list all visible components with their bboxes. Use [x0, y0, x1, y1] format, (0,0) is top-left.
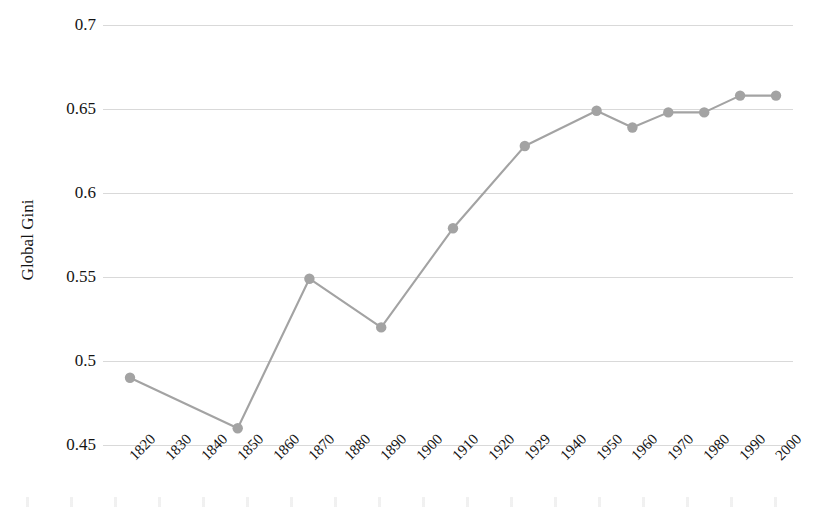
series-line	[130, 96, 776, 429]
scan-noise-artifact	[0, 497, 818, 507]
data-point-1850	[233, 423, 243, 433]
y-tick-0.5: 0.5	[40, 351, 96, 371]
y-tick-0.6: 0.6	[40, 183, 96, 203]
data-point-1990	[735, 90, 745, 100]
y-axis-title: Global Gini	[14, 40, 42, 440]
y-tick-0.7: 0.7	[40, 15, 96, 35]
plot-area	[103, 25, 793, 445]
data-point-2000	[771, 90, 781, 100]
data-point-1950	[591, 106, 601, 116]
y-tick-0.65: 0.65	[40, 99, 96, 119]
line-chart: Global Gini 0.70.650.60.550.50.45 182018…	[0, 0, 818, 507]
data-point-1970	[663, 107, 673, 117]
y-tick-0.45: 0.45	[40, 435, 96, 455]
data-point-1820	[125, 373, 135, 383]
series-global-gini	[103, 25, 793, 445]
data-point-1960	[627, 122, 637, 132]
data-point-1870	[304, 274, 314, 284]
y-tick-0.55: 0.55	[40, 267, 96, 287]
y-axis-tick-labels: 0.70.650.60.550.50.45	[40, 0, 96, 507]
data-point-1929	[520, 141, 530, 151]
data-point-1980	[699, 107, 709, 117]
y-axis-title-label: Global Gini	[18, 200, 38, 281]
data-point-1910	[448, 223, 458, 233]
data-point-1890	[376, 322, 386, 332]
